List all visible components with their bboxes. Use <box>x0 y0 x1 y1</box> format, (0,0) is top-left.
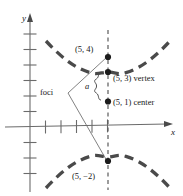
point-vertex-upper <box>105 69 111 75</box>
label-focus-upper: (5, 4) <box>75 45 93 54</box>
label-center: (5, 1) center <box>113 98 154 107</box>
x-axis-label: x <box>171 128 175 137</box>
label-vertex: (5, 3) vertex <box>113 74 155 83</box>
point-center <box>105 98 111 104</box>
hyperbola-figure: y x (5, 4) (5, 3) vertex (5, 1) center (… <box>0 0 183 196</box>
y-axis-arrowhead <box>27 13 33 22</box>
semi-axis-brace <box>95 73 101 100</box>
label-foci: foci <box>40 88 53 97</box>
graph-canvas <box>0 0 183 196</box>
label-focus-lower: (5, −2) <box>72 172 95 181</box>
y-axis-label: y <box>22 14 26 23</box>
point-focus-lower <box>105 158 111 164</box>
point-focus-upper <box>105 54 111 60</box>
label-semi-axis-a: a <box>85 82 89 91</box>
